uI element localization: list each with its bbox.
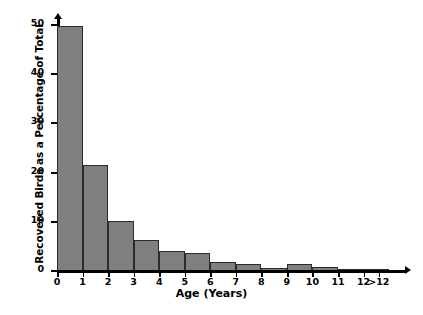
y-axis-tick-label: 10 — [31, 214, 44, 225]
x-axis-title: Age (Years) — [0, 287, 423, 300]
y-axis-tick: 50 — [51, 24, 57, 26]
x-axis-tick-label: 8 — [258, 276, 265, 287]
plot-area: 01020304050 0123456789101112>12 — [57, 18, 407, 272]
bar — [185, 253, 211, 270]
y-axis-tick-label: 30 — [31, 115, 44, 126]
x-axis-tick-label: 6 — [207, 276, 214, 287]
x-axis-tick-label: 4 — [156, 276, 163, 287]
y-axis-tick: 10 — [51, 221, 57, 223]
y-axis-tick: 30 — [51, 122, 57, 124]
bar — [312, 267, 338, 270]
y-axis-tick-label: 40 — [31, 66, 44, 77]
bar — [159, 251, 185, 270]
bar — [83, 165, 109, 270]
x-axis-tick-label: 1 — [79, 276, 86, 287]
bar — [261, 268, 287, 270]
bar — [134, 240, 160, 270]
x-axis-tick-label: 5 — [181, 276, 188, 287]
y-axis-tick-label: 50 — [31, 17, 44, 28]
bar-chart-figure: Recovered Birds as a Percentage of Total… — [0, 0, 423, 315]
bar — [364, 269, 390, 270]
x-axis-arrow-icon — [405, 266, 411, 274]
x-axis-tick-label: 0 — [54, 276, 61, 287]
x-axis-tick-label: 3 — [130, 276, 137, 287]
x-axis-tick-label: 10 — [306, 276, 319, 287]
x-axis-tick-label: >12 — [368, 276, 389, 287]
bar — [108, 221, 134, 270]
y-axis-arrow-icon — [54, 13, 62, 19]
y-axis-tick-label: 20 — [31, 165, 44, 176]
bar — [236, 264, 262, 270]
bar — [287, 264, 313, 270]
x-axis-tick-label: 7 — [233, 276, 240, 287]
y-axis-title: Recovered Birds as a Percentage of Total — [33, 19, 45, 269]
bar — [57, 26, 83, 270]
x-axis-tick-label: 11 — [331, 276, 344, 287]
bar — [210, 262, 236, 270]
bar — [338, 269, 364, 270]
x-axis-tick-label: 9 — [284, 276, 291, 287]
y-axis-tick: 40 — [51, 73, 57, 75]
y-axis-tick-label: 0 — [37, 263, 44, 274]
y-axis-tick: 20 — [51, 172, 57, 174]
x-axis-tick-label: 2 — [105, 276, 112, 287]
